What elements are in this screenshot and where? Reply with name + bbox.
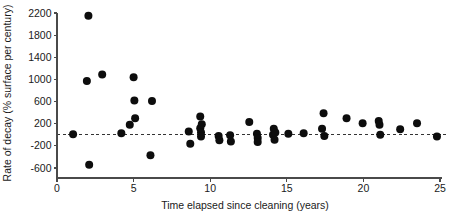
data-point <box>318 125 326 133</box>
data-point <box>254 138 262 146</box>
y-tick-label: 200 <box>34 117 52 129</box>
data-point <box>131 114 139 122</box>
data-point <box>196 113 204 121</box>
data-point <box>271 136 279 144</box>
y-tick-label: 1400 <box>28 51 52 63</box>
data-point <box>359 119 367 127</box>
data-points-group <box>69 12 441 169</box>
data-point <box>197 132 205 140</box>
data-point <box>146 151 154 159</box>
x-tick-label: 25 <box>434 182 446 194</box>
y-tick-label: 2200 <box>28 7 52 19</box>
data-point <box>148 97 156 105</box>
data-point <box>227 137 235 145</box>
data-point <box>271 129 279 137</box>
x-tick-label: 5 <box>131 182 137 194</box>
data-point <box>85 161 93 169</box>
axes-group <box>54 13 443 182</box>
data-point <box>126 121 134 129</box>
x-tick-label: 15 <box>281 182 293 194</box>
data-point <box>198 120 206 128</box>
data-point <box>83 77 91 85</box>
data-point <box>186 140 194 148</box>
data-point <box>69 130 77 138</box>
data-point <box>130 96 138 104</box>
data-point <box>320 109 328 117</box>
y-tick-label: -200 <box>30 139 51 151</box>
x-tick-label: 0 <box>54 182 60 194</box>
y-tick-label: 600 <box>34 95 52 107</box>
data-point <box>284 130 292 138</box>
data-point <box>396 125 404 133</box>
x-tick-label: 20 <box>358 182 370 194</box>
plot-canvas: -600-2002006001000140018002200 051015202… <box>0 0 449 215</box>
data-point <box>343 114 351 122</box>
data-point <box>84 12 92 20</box>
data-point <box>98 70 106 78</box>
data-point <box>376 131 384 139</box>
data-point <box>117 129 125 137</box>
data-point <box>375 121 383 129</box>
data-point <box>320 132 328 140</box>
data-point <box>185 127 193 135</box>
y-axis-title: Rate of decay (% surface per century) <box>1 5 13 182</box>
data-point <box>130 73 138 81</box>
data-point <box>245 118 253 126</box>
y-tick-label: 1000 <box>28 73 52 85</box>
y-tick-label: -600 <box>30 162 51 174</box>
x-tick-label: 10 <box>204 182 216 194</box>
data-point <box>433 132 441 140</box>
scatter-chart-figure: -600-2002006001000140018002200 051015202… <box>0 0 449 215</box>
x-tick-labels-group: 0510152025 <box>54 182 446 194</box>
y-tick-labels-group: -600-2002006001000140018002200 <box>28 7 52 174</box>
data-point <box>215 136 223 144</box>
data-point <box>413 119 421 127</box>
data-point <box>300 129 308 137</box>
y-tick-label: 1800 <box>28 29 52 41</box>
x-axis-title: Time elapsed since cleaning (years) <box>161 199 329 211</box>
